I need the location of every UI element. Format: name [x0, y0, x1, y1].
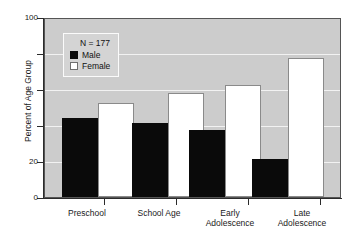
x-tick-2 — [176, 198, 177, 205]
legend-item-female: Female — [70, 61, 110, 71]
y-axis-title: Percent of Age Group — [23, 26, 33, 176]
x-tick-4 — [320, 198, 321, 205]
y-tick-60 — [37, 90, 43, 91]
bar-chart-figure: N = 177 Male Female 100 20 0 Percent of … — [0, 0, 356, 238]
bar-male-late-adolescence — [252, 159, 288, 197]
y-axis-line — [43, 18, 44, 199]
legend-label-female: Female — [82, 61, 110, 71]
y-tick-80 — [37, 54, 43, 55]
y-tick-label-100: 100 — [0, 14, 38, 22]
bar-female-late-adolescence — [288, 58, 324, 197]
legend-swatch-male-icon — [70, 51, 78, 59]
bar-male-school-age — [132, 123, 168, 197]
bar-female-preschool — [98, 103, 134, 197]
x-label-late-adolescence: Late Adolescence — [257, 208, 347, 228]
legend-item-male: Male — [70, 50, 110, 60]
y-tick-40 — [37, 126, 43, 127]
x-label-late-adolescence-line2: Adolescence — [257, 218, 347, 228]
x-axis-line — [43, 198, 342, 199]
legend-sample-size: N = 177 — [80, 38, 110, 48]
plot-area: N = 177 Male Female — [44, 18, 341, 198]
x-tick-3 — [248, 198, 249, 205]
x-tick-1 — [104, 198, 105, 205]
legend-label-male: Male — [82, 50, 100, 60]
legend-swatch-female-icon — [70, 62, 78, 70]
x-label-late-adolescence-line1: Late — [257, 208, 347, 218]
chart-legend: N = 177 Male Female — [63, 33, 119, 77]
bar-male-early-adolescence — [189, 130, 225, 197]
y-tick-label-0: 0 — [0, 194, 38, 202]
bar-male-preschool — [62, 118, 98, 197]
